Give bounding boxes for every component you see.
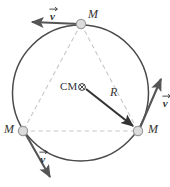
triangle-edge-top-right [81, 24, 138, 131]
vector-overbar-icon [49, 6, 58, 11]
velocity-label-top-text: v [50, 10, 55, 22]
triangle-edge-top-left [23, 24, 81, 131]
mass-right-marker [133, 126, 142, 135]
triangle-dashed [23, 24, 138, 131]
mass-label-top: M [88, 8, 98, 20]
velocity-label-top: v [50, 10, 58, 22]
figure-canvas [0, 0, 170, 187]
mass-label-left: M [4, 123, 14, 135]
orbit-circle [13, 25, 149, 161]
velocity-arrow-top [32, 22, 80, 24]
velocity-label-right-text: v [163, 97, 168, 109]
mass-left-marker [18, 126, 27, 135]
vector-overbar-icon [39, 149, 48, 154]
velocity-label-left: v [40, 153, 45, 165]
mass-top-marker [76, 19, 85, 28]
velocity-arrow-left [25, 133, 50, 177]
physics-figure: M M M R CM v v v [0, 0, 170, 187]
velocity-label-right: v [163, 97, 170, 109]
center-of-mass-symbol [79, 84, 86, 91]
radius-label: R [110, 86, 117, 98]
vector-overbar-icon [162, 93, 170, 98]
mass-label-right: M [148, 123, 158, 135]
velocity-label-left-text: v [40, 153, 45, 165]
center-of-mass-label: CM [60, 81, 78, 92]
